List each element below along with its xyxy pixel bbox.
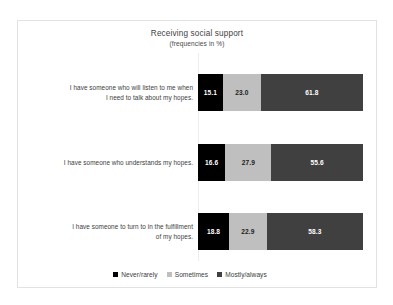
legend-label: Sometimes (175, 271, 208, 278)
bar-segment-sometimes[interactable]: 23.0 (223, 74, 261, 111)
legend-swatch-icon (113, 272, 118, 277)
category-label: I have someone to turn to in the fulfill… (18, 222, 198, 241)
bar-segment-never-rarely[interactable]: 16.6 (198, 144, 225, 181)
chart-subtitle: (frequencies in %) (18, 39, 376, 49)
chart-title-block: Receiving social support (frequencies in… (18, 28, 376, 49)
legend-item-never-rarely[interactable]: Never/rarely (113, 271, 158, 278)
stacked-bar-track: 16.6 27.9 55.6 (198, 144, 363, 181)
bar-segment-mostly-always[interactable]: 55.6 (271, 144, 363, 181)
bar-segment-never-rarely[interactable]: 15.1 (198, 74, 223, 111)
bar-row: I have someone who will listen to me whe… (18, 74, 376, 111)
bar-segment-sometimes[interactable]: 27.9 (225, 144, 271, 181)
legend-swatch-icon (217, 272, 222, 277)
figure-caption (4, 297, 324, 305)
legend-label: Mostly/always (225, 271, 267, 278)
legend-item-sometimes[interactable]: Sometimes (167, 271, 208, 278)
bar-segment-sometimes[interactable]: 22.9 (229, 213, 267, 250)
legend-item-mostly-always[interactable]: Mostly/always (217, 271, 267, 278)
bar-row: I have someone who understands my hopes.… (18, 144, 376, 181)
bar-segment-mostly-always[interactable]: 61.8 (261, 74, 363, 111)
legend-swatch-icon (167, 272, 172, 277)
legend-label: Never/rarely (121, 271, 158, 278)
stacked-bar-track: 15.1 23.0 61.8 (198, 74, 363, 111)
chart-frame: Receiving social support (frequencies in… (17, 20, 377, 288)
chart-legend: Never/rarely Sometimes Mostly/always (18, 271, 376, 278)
chart-title: Receiving social support (18, 28, 376, 39)
bar-row: I have someone to turn to in the fulfill… (18, 213, 376, 250)
category-label: I have someone who will listen to me whe… (18, 83, 198, 102)
bar-segment-mostly-always[interactable]: 58.3 (267, 213, 363, 250)
category-label: I have someone who understands my hopes. (18, 158, 198, 168)
bar-segment-never-rarely[interactable]: 18.8 (198, 213, 229, 250)
stacked-bar-track: 18.8 22.9 58.3 (198, 213, 363, 250)
